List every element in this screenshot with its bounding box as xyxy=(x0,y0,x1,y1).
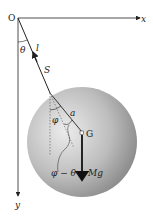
theta-label: θ xyxy=(20,45,26,55)
distance-a-label: a xyxy=(70,108,75,118)
theta-arc xyxy=(18,40,27,42)
string-arrow xyxy=(33,52,37,62)
phi-label: φ xyxy=(52,115,59,125)
phi-minus-theta-label: φ − θ xyxy=(51,168,77,178)
weight-label: Mg xyxy=(87,168,103,178)
string-length-label: l xyxy=(36,43,39,53)
suspension-point-label: S xyxy=(44,65,50,75)
origin-label: O xyxy=(8,13,15,23)
pendulum-diagram: O x y l θ S a φ G φ − θ Mg xyxy=(0,0,153,217)
center-of-mass-point xyxy=(80,131,84,135)
y-axis-label: y xyxy=(14,200,21,210)
center-of-mass-label: G xyxy=(86,129,93,139)
x-axis-label: x xyxy=(141,14,146,24)
